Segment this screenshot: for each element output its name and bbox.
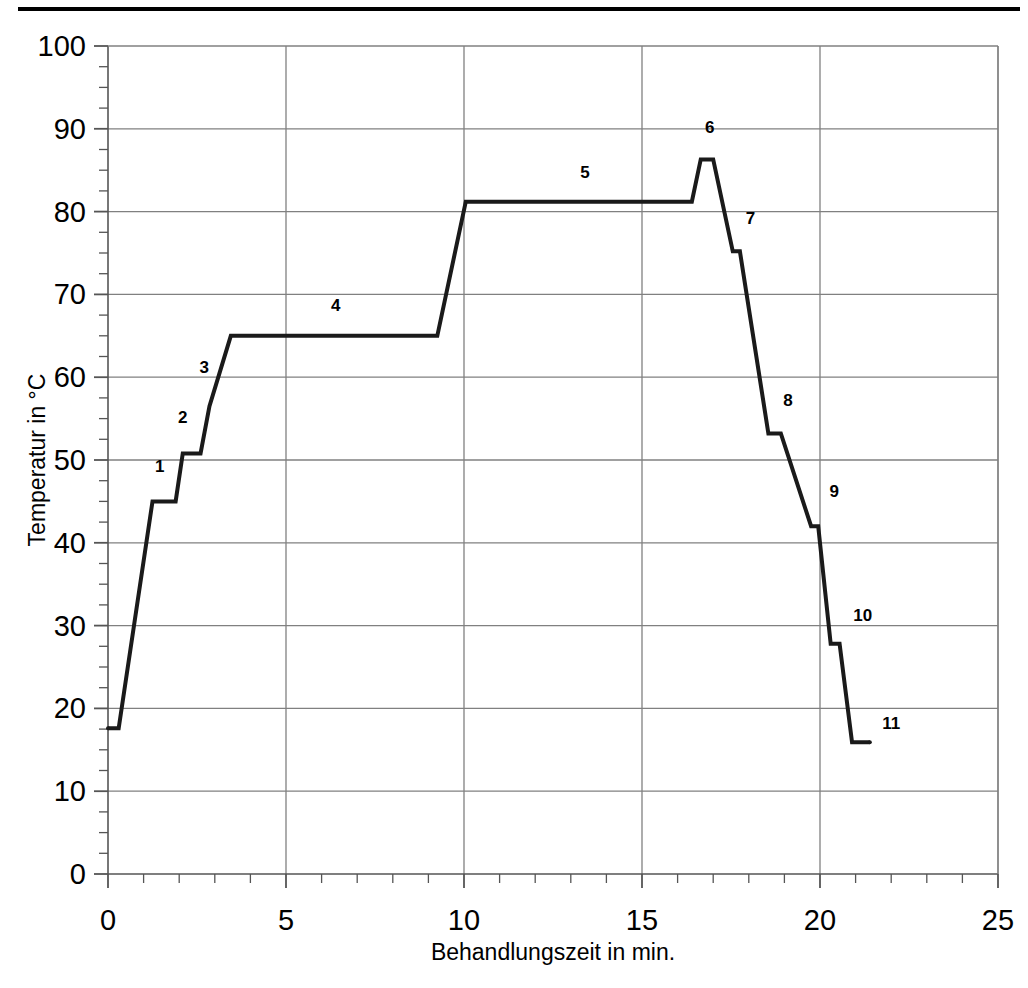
y-tick-label: 0: [70, 858, 86, 890]
step-number-label: 6: [705, 118, 714, 137]
x-tick-label: 25: [982, 904, 1014, 936]
y-tick-label: 60: [54, 361, 86, 393]
y-tick-label: 30: [54, 610, 86, 642]
gridlines: [108, 46, 998, 874]
x-tick-label: 10: [448, 904, 480, 936]
step-number-label: 11: [882, 714, 900, 733]
step-number-label: 2: [178, 408, 187, 427]
data-series-lines: [106, 159, 872, 744]
x-axis-title: Behandlungszeit in min.: [431, 939, 675, 965]
step-number-label: 9: [830, 482, 839, 501]
x-tick-label: 0: [100, 904, 116, 936]
step-number-label: 8: [783, 391, 792, 410]
series-line: [108, 159, 870, 742]
y-tick-label: 100: [38, 30, 86, 62]
x-tick-label: 5: [278, 904, 294, 936]
chart-page: 0102030405060708090100 0510152025 123456…: [0, 0, 1028, 988]
series-start-point: [106, 726, 110, 730]
y-tick-label: 90: [54, 113, 86, 145]
y-tick-label: 40: [54, 527, 86, 559]
y-tick-label: 70: [54, 278, 86, 310]
x-tick-label: 20: [804, 904, 836, 936]
data-point-labels: 1234567891011: [155, 118, 900, 733]
x-tick-label: 15: [626, 904, 658, 936]
step-number-label: 5: [580, 163, 589, 182]
y-tick-label: 50: [54, 444, 86, 476]
step-number-label: 4: [331, 296, 341, 315]
x-axis-tick-labels: 0510152025: [100, 904, 1014, 936]
chart-svg: 0102030405060708090100 0510152025 123456…: [0, 0, 1028, 988]
step-number-label: 10: [853, 606, 872, 625]
y-axis-title: Temperatur in °C: [24, 374, 50, 547]
y-tick-label: 10: [54, 775, 86, 807]
y-tick-label: 80: [54, 196, 86, 228]
axis-ticks: [94, 46, 998, 888]
step-number-label: 7: [746, 209, 755, 228]
y-tick-label: 20: [54, 692, 86, 724]
series-end-point: [868, 740, 872, 744]
step-number-label: 1: [155, 457, 164, 476]
temperature-time-line-chart: 0102030405060708090100 0510152025 123456…: [0, 0, 1028, 988]
step-number-label: 3: [199, 358, 208, 377]
